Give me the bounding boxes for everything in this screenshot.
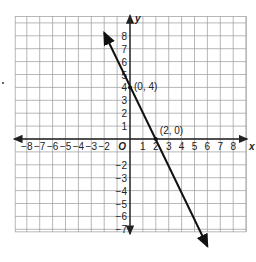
y-tick-label: 4: [121, 82, 127, 93]
x-tick-label: −4: [73, 141, 85, 152]
x-tick-label: −2: [98, 141, 110, 152]
y-tick-label: −4: [116, 186, 128, 197]
x-axis-label: x: [248, 141, 255, 152]
x-tick-label: 7: [218, 141, 224, 152]
x-tick-label: −5: [60, 141, 72, 152]
x-tick-label: 8: [230, 141, 236, 152]
y-tick-label: 1: [121, 121, 127, 132]
x-tick-label: −3: [86, 141, 98, 152]
axes: [14, 15, 247, 233]
x-tick-label: −7: [34, 141, 46, 152]
y-tick-label: 8: [121, 31, 127, 42]
x-tick-label: 4: [179, 141, 185, 152]
point-label: (2, 0): [160, 125, 183, 136]
y-tick-label: 7: [121, 44, 127, 55]
coordinate-plane: −8−7−6−5−4−3−21234567887654321−2−3−4−5−6…: [0, 0, 256, 262]
x-tick-label: −8: [21, 141, 33, 152]
y-tick-label: −2: [116, 160, 128, 171]
x-tick-label: 5: [192, 141, 198, 152]
y-tick-label: −5: [116, 199, 128, 210]
y-tick-label: 3: [121, 95, 127, 106]
y-tick-label: −7: [116, 224, 128, 235]
origin-label: O: [118, 141, 126, 152]
x-tick-label: 1: [140, 141, 146, 152]
x-tick-label: 3: [166, 141, 172, 152]
y-tick-label: −3: [116, 173, 128, 184]
point-label: (0, 4): [134, 81, 157, 92]
x-tick-label: 6: [205, 141, 211, 152]
x-tick-label: −6: [47, 141, 59, 152]
y-axis-label: y: [134, 13, 141, 24]
y-tick-label: −6: [116, 211, 128, 222]
stray-mark: [2, 82, 4, 84]
y-tick-label: 2: [121, 108, 127, 119]
y-tick-label: 6: [121, 57, 127, 68]
